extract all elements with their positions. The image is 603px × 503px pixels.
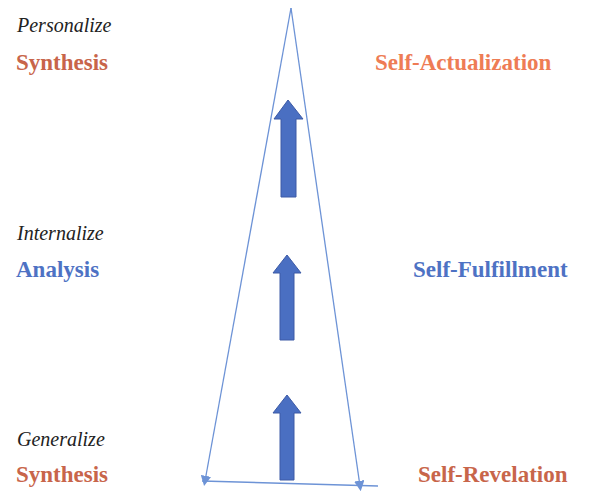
triangle-base (202, 481, 378, 486)
internalize-label: Internalize (17, 222, 104, 245)
personalize-label: Personalize (17, 14, 111, 37)
self-revelation-label: Self-Revelation (418, 462, 567, 488)
up-arrow-icon (273, 395, 301, 480)
up-arrow-icon (273, 255, 301, 340)
self-fulfillment-label: Self-Fulfillment (413, 257, 568, 283)
self-actualization-label: Self-Actualization (375, 50, 551, 76)
synthesis-top-label: Synthesis (16, 50, 108, 76)
up-arrow-icon (274, 100, 303, 197)
generalize-label: Generalize (17, 428, 105, 451)
analysis-label: Analysis (16, 257, 99, 283)
synthesis-bottom-label: Synthesis (16, 462, 108, 488)
triangle-right-side (291, 8, 360, 486)
